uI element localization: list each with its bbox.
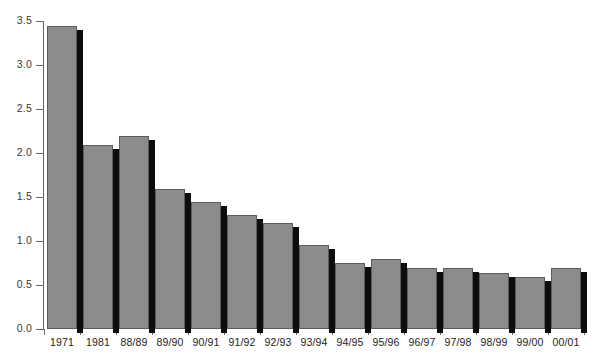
y-axis-tick [36, 153, 44, 154]
bar-body [479, 273, 509, 329]
bar [515, 277, 551, 329]
bar [299, 245, 335, 329]
x-axis-tick-label: 00/01 [545, 336, 587, 348]
bar-body [191, 202, 221, 329]
y-axis-tick-label: 1.5 [0, 190, 32, 202]
bar-body [227, 215, 257, 329]
y-axis-tick-label: 0.5 [0, 278, 32, 290]
bar-body [551, 268, 581, 329]
bar [443, 268, 479, 329]
bar [119, 136, 155, 329]
bar-body [443, 268, 473, 329]
y-axis-tick-label: 2.0 [0, 146, 32, 158]
bar-chart: 0.00.51.01.52.02.53.03.5 1971198188/8989… [0, 0, 594, 361]
bar [191, 202, 227, 329]
bar-body [407, 268, 437, 329]
bar [263, 223, 299, 329]
bar [83, 145, 119, 329]
bar [551, 268, 587, 329]
x-axis-tick [44, 329, 45, 335]
y-axis-tick-label: 3.0 [0, 58, 32, 70]
y-axis-tick-label: 0.0 [0, 322, 32, 334]
bar [155, 189, 191, 329]
bar [47, 26, 83, 329]
bar-body [83, 145, 113, 329]
y-axis-tick [36, 329, 44, 330]
bar [371, 259, 407, 329]
y-axis-tick-label: 3.5 [0, 14, 32, 26]
bar-body [299, 245, 329, 329]
y-axis-tick [36, 285, 44, 286]
bar-shadow [581, 272, 587, 333]
y-axis-tick [36, 197, 44, 198]
bar-body [335, 263, 365, 329]
y-axis-tick [36, 109, 44, 110]
bar-body [263, 223, 293, 329]
y-axis-tick [36, 21, 44, 22]
y-axis-tick [36, 241, 44, 242]
bar-body [47, 26, 77, 329]
bar [479, 273, 515, 329]
y-axis-tick-label: 1.0 [0, 234, 32, 246]
bar [335, 263, 371, 329]
bar-body [119, 136, 149, 329]
bar-body [155, 189, 185, 329]
y-axis-tick [36, 65, 44, 66]
bar-body [371, 259, 401, 329]
y-axis-tick-label: 2.5 [0, 102, 32, 114]
bar [227, 215, 263, 329]
bar-body [515, 277, 545, 329]
bar [407, 268, 443, 329]
y-axis-line [43, 21, 44, 330]
